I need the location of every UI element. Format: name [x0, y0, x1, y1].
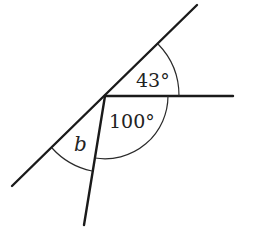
- angle-label-b: b: [74, 134, 87, 154]
- angle-label-43: 43°: [136, 71, 170, 90]
- angle-label-100: 100°: [109, 112, 155, 131]
- lower-ray: [84, 96, 105, 225]
